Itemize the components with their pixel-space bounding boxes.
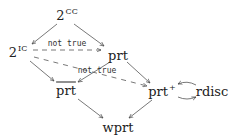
- edge-prtplus-to-rdisc: [178, 97, 196, 99]
- node-2-ic-base: 2: [9, 45, 17, 60]
- node-2-ic-sup: IC: [18, 44, 27, 53]
- node-prt-label: prt: [108, 48, 128, 63]
- node-prt-bar-label: prt: [56, 83, 76, 98]
- edge-2ic-to-prtbar: [30, 61, 54, 81]
- node-prt-plus-base: prt: [148, 84, 168, 99]
- node-prt-bar: prt: [56, 84, 76, 97]
- node-prt-plus-sup: +: [169, 83, 176, 92]
- diagram-edges: [0, 0, 236, 139]
- node-prt: prt: [108, 49, 128, 62]
- node-2-cc: 2CC: [56, 9, 78, 22]
- node-wprt-label: wprt: [103, 120, 134, 135]
- edge-rdisc-to-prtplus: [178, 82, 196, 85]
- edge-prt-to-prtplus: [127, 62, 150, 83]
- node-2-cc-sup: CC: [66, 7, 78, 16]
- node-rdisc-label: rdisc: [196, 84, 229, 99]
- node-rdisc: rdisc: [196, 85, 229, 98]
- node-wprt: wprt: [103, 121, 134, 134]
- node-2-cc-base: 2: [56, 8, 64, 23]
- node-prt-plus: prt+: [148, 85, 175, 98]
- edge-prtbar-to-wprt: [78, 99, 103, 118]
- edge-label-not-true-mid: not true: [78, 66, 117, 75]
- edge-prtplus-to-wprt: [129, 100, 152, 118]
- edge-label-not-true-top: not true: [48, 39, 87, 48]
- node-2-ic: 2IC: [9, 46, 28, 59]
